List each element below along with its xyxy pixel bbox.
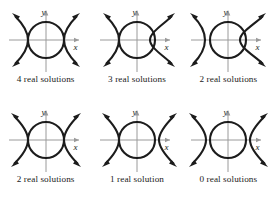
plot-1-real-solution: y x <box>94 102 180 176</box>
plot-2-real-solutions-bottom: y x <box>3 102 89 176</box>
plot-2-real-solutions-top: y x <box>185 2 271 76</box>
axes <box>191 10 261 72</box>
panel-grid: y x 4 real solutions <box>0 0 274 200</box>
axes <box>9 110 79 172</box>
y-axis-label: y <box>223 107 228 117</box>
plot-4-real-solutions: y x <box>3 2 89 76</box>
x-axis-label: x <box>255 42 260 52</box>
panel-2-real-solutions-top: y x 2 real solutions <box>183 0 274 100</box>
x-axis-label: x <box>255 142 260 152</box>
panel-caption: 0 real solutions <box>199 175 257 184</box>
panel-caption: 1 real solution <box>110 175 164 184</box>
x-axis-label: x <box>72 142 77 152</box>
panel-4-real-solutions: y x 4 real solutions <box>0 0 91 100</box>
x-axis-label: x <box>163 42 168 52</box>
panel-1-real-solution: y x 1 real solution <box>91 100 182 200</box>
y-axis-label: y <box>131 107 136 117</box>
y-axis-label: y <box>223 7 228 17</box>
x-axis-label: x <box>163 142 168 152</box>
plot-3-real-solutions: y x <box>94 2 180 76</box>
panel-2-real-solutions-bottom: y x 2 real solutions <box>0 100 91 200</box>
solutions-figure: y x 4 real solutions <box>0 0 274 200</box>
plot-0-real-solutions: y x <box>185 102 271 176</box>
panel-caption: 4 real solutions <box>17 75 75 84</box>
panel-0-real-solutions: y x 0 real solutions <box>183 100 274 200</box>
panel-caption: 3 real solutions <box>108 75 166 84</box>
y-axis-label: y <box>40 7 45 17</box>
x-axis-label: x <box>72 42 77 52</box>
panel-3-real-solutions: y x 3 real solutions <box>91 0 182 100</box>
panel-caption: 2 real solutions <box>199 75 257 84</box>
y-axis-label: y <box>131 7 136 17</box>
panel-caption: 2 real solutions <box>17 175 75 184</box>
y-axis-label: y <box>40 107 45 117</box>
